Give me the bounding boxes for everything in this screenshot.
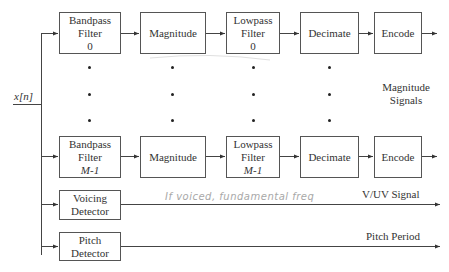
- encode-m-1-block: Encode: [374, 136, 422, 178]
- block-text: 0: [87, 40, 93, 53]
- block-text: Magnitude: [149, 27, 197, 40]
- input-signal-label: x[n]: [14, 90, 33, 103]
- magnitude-0-block: Magnitude: [140, 12, 206, 54]
- block-text: Filter: [78, 27, 102, 40]
- lowpass-filter-m-1-block: Lowpass Filter M-1: [226, 136, 280, 178]
- ellipsis-dot: [252, 66, 255, 69]
- ellipsis-dot: [88, 119, 91, 122]
- block-text: Lowpass: [233, 14, 272, 27]
- block-text: 0: [250, 40, 256, 53]
- pitch-detector-block: Pitch Detector: [59, 232, 121, 261]
- ellipsis-dot: [88, 93, 91, 96]
- bandpass-filter-0-block: Bandpass Filter 0: [59, 12, 121, 54]
- decimate-0-block: Decimate: [300, 12, 359, 54]
- block-text: Detector: [71, 205, 109, 218]
- block-text: Encode: [382, 27, 415, 40]
- voicing-detector-block: Voicing Detector: [59, 190, 121, 220]
- block-text: Decimate: [308, 151, 350, 164]
- block-text: Detector: [71, 247, 109, 260]
- block-text: Decimate: [308, 27, 350, 40]
- ellipsis-dot: [328, 66, 331, 69]
- handwritten-note: If voiced, fundamental freq: [165, 191, 314, 202]
- ellipsis-dot: [252, 93, 255, 96]
- magnitude-m-1-block: Magnitude: [140, 136, 206, 178]
- block-text: M-1: [81, 164, 99, 177]
- block-text: Pitch: [79, 234, 102, 247]
- block-text: Filter: [78, 151, 102, 164]
- block-text: Voicing: [73, 192, 107, 205]
- decimate-m-1-block: Decimate: [300, 136, 359, 178]
- label-line: Signals: [374, 94, 438, 107]
- ellipsis-dot: [171, 66, 174, 69]
- block-text: Lowpass: [233, 138, 272, 151]
- block-text: Magnitude: [149, 151, 197, 164]
- block-text: M-1: [244, 164, 262, 177]
- ellipsis-dot: [88, 66, 91, 69]
- pitch-period-label: Pitch Period: [366, 230, 420, 243]
- block-text: Bandpass: [69, 14, 111, 27]
- ellipsis-dot: [328, 119, 331, 122]
- block-text: Bandpass: [69, 138, 111, 151]
- vuv-signal-label: V/UV Signal: [362, 188, 420, 201]
- bandpass-filter-m-1-block: Bandpass Filter M-1: [59, 136, 121, 178]
- lowpass-filter-0-block: Lowpass Filter 0: [226, 12, 280, 54]
- encode-0-block: Encode: [374, 12, 422, 54]
- input-signal-text: x[n]: [14, 90, 33, 102]
- ellipsis-dot: [328, 93, 331, 96]
- ellipsis-dot: [171, 119, 174, 122]
- ellipsis-dot: [171, 93, 174, 96]
- block-text: Filter: [241, 151, 265, 164]
- block-text: Encode: [382, 151, 415, 164]
- block-text: Filter: [241, 27, 265, 40]
- ellipsis-dot: [252, 119, 255, 122]
- magnitude-signals-label: Magnitude Signals: [374, 81, 438, 107]
- label-line: Magnitude: [374, 81, 438, 94]
